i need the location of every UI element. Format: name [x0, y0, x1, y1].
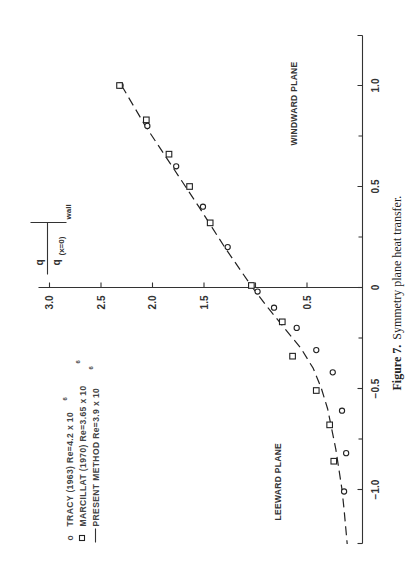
windward-plane-label: WINDWARD PLANE — [288, 61, 298, 145]
legend-item-marcillat: MARCILLAT (1970) Re=3.65 x 10 — [77, 385, 87, 526]
legend: o TRACY (1963) Re=4.2 x 10 6 MARCILLAT (… — [61, 359, 100, 542]
ylabel-denominator: q — [50, 259, 61, 265]
legend-item-tracy: TRACY (1963) Re=4.2 x 10 — [64, 411, 74, 526]
y-tick-label: 2.0 — [147, 295, 158, 309]
legend-item-present-method: PRESENT METHOD Re=3.9 x 10 — [90, 387, 100, 526]
legend-symbol-circle: o — [64, 534, 74, 540]
ylabel-wall: wall — [63, 204, 72, 220]
marcillat-data-point — [116, 82, 122, 88]
tracy-data-point — [254, 288, 259, 293]
marcillat-data-point — [289, 353, 295, 359]
figure-caption: Figure 7.Symmetry plane heat transfer. — [389, 195, 403, 390]
plot-area — [116, 82, 348, 543]
leeward-plane-label: LEEWARD PLANE — [272, 442, 282, 520]
marcillat-data-point — [330, 458, 336, 464]
figure-page: −1.0−0.500.51.0 0.51.52.02.53.0 q q (x=0… — [0, 0, 409, 570]
marcillat-data-point — [186, 183, 192, 189]
x-axis-ticks: −1.0−0.500.51.0 — [357, 35, 380, 543]
tracy-data-point — [144, 123, 149, 128]
tracy-data-point — [225, 244, 230, 249]
present-method-curve — [121, 85, 347, 544]
x-tick-label: 0.5 — [369, 179, 380, 193]
y-tick-label: 2.5 — [95, 295, 106, 309]
tracy-data-point — [339, 408, 344, 413]
legend-exp: 6 — [61, 396, 67, 400]
x-tick-label: −1.0 — [369, 479, 380, 499]
marcillat-data-point — [143, 117, 149, 123]
tracy-data-point — [330, 369, 335, 374]
marcillat-data-point — [326, 422, 332, 428]
marcillat-data-point — [279, 319, 285, 325]
rotated-figure: −1.0−0.500.51.0 0.51.52.02.53.0 q q (x=0… — [0, 0, 409, 570]
legend-symbol-square — [79, 535, 84, 540]
tracy-data-point — [271, 305, 276, 310]
y-tick-label: 1.5 — [198, 295, 209, 309]
ylabel-numerator: q — [33, 259, 44, 265]
y-tick-label: 3.0 — [44, 295, 55, 309]
x-tick-label: 0 — [369, 284, 380, 290]
y-tick-label: 0.5 — [301, 295, 312, 309]
y-axis-ticks: 0.51.52.02.53.0 — [44, 282, 313, 309]
tracy-data-point — [294, 325, 299, 330]
x-tick-label: 1.0 — [369, 78, 380, 92]
tracy-data-point — [200, 204, 205, 209]
marcillat-data-point — [313, 387, 319, 393]
marcillat-data-point — [248, 282, 254, 288]
tracy-data-point — [343, 450, 348, 455]
ylabel-subscript: (x=0) — [56, 236, 65, 255]
heat-transfer-chart: −1.0−0.500.51.0 0.51.52.02.53.0 q q (x=0… — [0, 0, 409, 570]
marcillat-data-point — [166, 151, 172, 157]
legend-exp: 6 — [74, 359, 80, 363]
legend-exp: 6 — [87, 365, 93, 369]
marcillat-data-point — [207, 220, 213, 226]
x-tick-label: −0.5 — [369, 378, 380, 398]
tracy-data-point — [313, 347, 318, 352]
y-axis-label: q q (x=0) wall — [30, 204, 72, 274]
tracy-data-point — [173, 163, 178, 168]
